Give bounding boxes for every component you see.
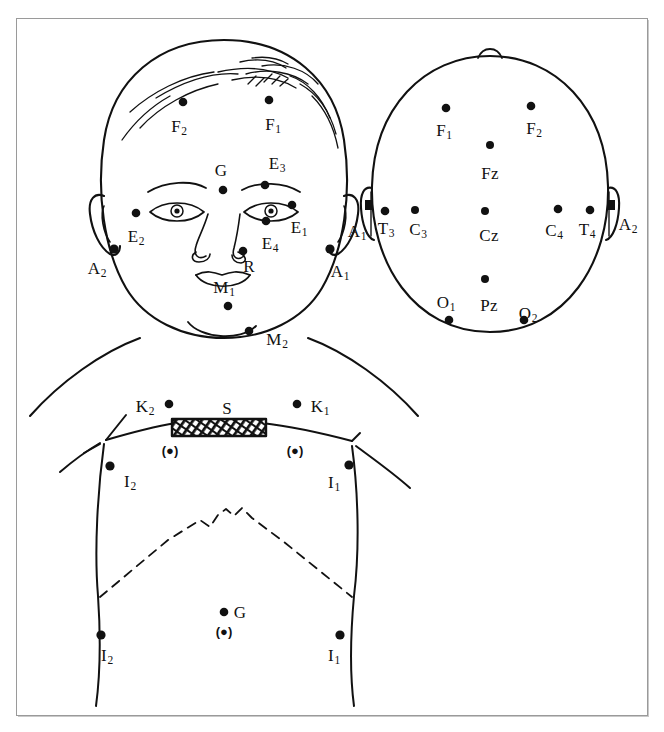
label-A2-face: A2 <box>88 260 106 277</box>
label-ref-left-clavicle: (●) <box>162 444 179 457</box>
label-A2-head: A2 <box>619 216 637 233</box>
figure-root: F2 F1 E3 G E1 E2 E4 R A2 A1 M1 M2 F1 F2 … <box>0 0 664 732</box>
label-G-torso: G <box>234 604 246 621</box>
label-M1: M1 <box>213 279 234 296</box>
label-M2: M2 <box>266 331 287 348</box>
label-E2: E2 <box>128 228 145 245</box>
label-E3: E3 <box>269 155 286 172</box>
label-C3: C3 <box>409 221 427 238</box>
label-ref-abdomen: (●) <box>216 625 233 638</box>
label-ref-right-clavicle: (●) <box>287 444 304 457</box>
label-F1-head: F1 <box>436 122 452 139</box>
label-K2: K2 <box>136 398 154 415</box>
label-C4: C4 <box>545 222 563 239</box>
label-F2-head: F2 <box>526 120 542 137</box>
label-Pz: Pz <box>480 297 497 314</box>
label-Fz: Fz <box>481 165 498 182</box>
label-F2-face: F2 <box>171 118 187 135</box>
label-K1: K1 <box>311 398 329 415</box>
figure-labels: F2 F1 E3 G E1 E2 E4 R A2 A1 M1 M2 F1 F2 … <box>0 0 664 732</box>
label-T4: T4 <box>579 221 596 238</box>
label-I2-upper: I2 <box>124 473 136 490</box>
label-I1-upper: I1 <box>328 474 340 491</box>
label-I1-lower: I1 <box>328 647 340 664</box>
label-O1: O1 <box>437 294 455 311</box>
label-O2: O2 <box>519 305 537 322</box>
label-R: R <box>243 258 255 275</box>
label-F1-face: F1 <box>265 116 281 133</box>
label-S: S <box>222 400 232 417</box>
label-A1-face: A1 <box>331 263 349 280</box>
label-T3: T3 <box>378 220 395 237</box>
label-E1: E1 <box>291 219 308 236</box>
label-I2-lower: I2 <box>101 647 113 664</box>
label-A1-head: A1 <box>348 223 366 240</box>
label-G-face: G <box>215 162 227 179</box>
label-Cz: Cz <box>479 227 498 244</box>
label-E4: E4 <box>262 235 279 252</box>
